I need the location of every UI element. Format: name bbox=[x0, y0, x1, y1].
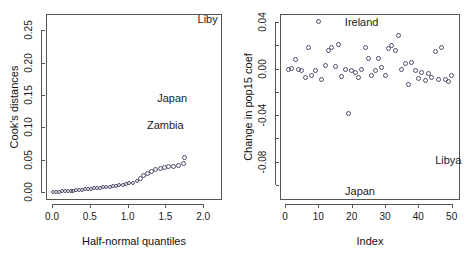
point-label-libya: Libya bbox=[435, 155, 461, 166]
x-axis-title-left: Half-normal quantiles bbox=[82, 236, 186, 247]
x-axis-line-right bbox=[285, 204, 452, 205]
y-tick-label-right-3: -0.08 bbox=[258, 150, 268, 173]
point-label-ireland: Ireland bbox=[345, 17, 379, 28]
data-point bbox=[339, 74, 344, 79]
x-tick-label-right-1: 10 bbox=[313, 212, 324, 222]
data-point bbox=[439, 45, 444, 50]
y-tick-left-0 bbox=[41, 192, 45, 193]
data-point bbox=[306, 45, 311, 50]
data-point bbox=[359, 67, 364, 72]
y-tick-right-3 bbox=[275, 162, 279, 163]
data-point bbox=[419, 70, 424, 75]
y-tick-label-right-2: -0.04 bbox=[258, 104, 268, 127]
x-tick-label-right-3: 30 bbox=[379, 212, 390, 222]
data-point bbox=[289, 66, 294, 71]
y-tick-right-0 bbox=[275, 22, 279, 23]
x-tick-label-right-4: 40 bbox=[413, 212, 424, 222]
y-minor-tick-right-0 bbox=[276, 45, 279, 46]
figure-canvas: Half-normal quantiles Cook's distances 0… bbox=[0, 0, 468, 264]
y-tick-label-left-5: 0.25 bbox=[24, 20, 34, 39]
panel-coef-change: Index Change in pop15 coef 010203040500.… bbox=[234, 0, 468, 264]
x-tick-right-4 bbox=[418, 204, 419, 208]
data-point bbox=[323, 63, 328, 68]
x-tick-label-right-2: 20 bbox=[346, 212, 357, 222]
y-tick-label-left-2: 0.10 bbox=[24, 118, 34, 137]
point-label-zambia: Zambia bbox=[147, 120, 184, 131]
data-point bbox=[336, 42, 341, 47]
data-point bbox=[393, 48, 398, 53]
y-tick-label-left-0: 0.00 bbox=[24, 182, 34, 201]
y-axis-line-right bbox=[275, 22, 276, 185]
y-tick-left-3 bbox=[41, 95, 45, 96]
y-tick-left-1 bbox=[41, 160, 45, 161]
x-tick-right-0 bbox=[285, 204, 286, 208]
y-tick-right-2 bbox=[275, 115, 279, 116]
data-point bbox=[293, 57, 298, 62]
y-axis-line-left bbox=[41, 30, 42, 192]
y-minor-tick-right-2 bbox=[276, 138, 279, 139]
data-point bbox=[383, 73, 388, 78]
x-tick-left-3 bbox=[165, 204, 166, 208]
data-point bbox=[333, 64, 338, 69]
y-tick-label-left-1: 0.05 bbox=[24, 150, 34, 169]
y-axis-title-right: Change in pop15 coef bbox=[243, 53, 254, 161]
x-tick-label-left-2: 1.0 bbox=[121, 212, 135, 222]
data-point bbox=[366, 56, 371, 61]
y-tick-label-right-0: 0.04 bbox=[258, 12, 268, 31]
x-tick-label-left-4: 2.0 bbox=[196, 212, 210, 222]
x-tick-left-4 bbox=[203, 204, 204, 208]
y-tick-label-left-3: 0.15 bbox=[24, 85, 34, 104]
data-point bbox=[416, 76, 421, 81]
y-tick-left-4 bbox=[41, 63, 45, 64]
data-point bbox=[429, 75, 434, 80]
x-tick-left-1 bbox=[90, 204, 91, 208]
data-point bbox=[376, 56, 381, 61]
y-axis-title-left: Cook's distances bbox=[9, 66, 20, 149]
plot-frame-right bbox=[280, 14, 460, 200]
x-tick-left-0 bbox=[52, 204, 53, 208]
point-label-japan: Japan bbox=[345, 186, 375, 197]
x-tick-label-left-3: 1.5 bbox=[158, 212, 172, 222]
data-point bbox=[423, 78, 428, 83]
point-label-japan: Japan bbox=[157, 93, 187, 104]
plot-frame-left bbox=[46, 14, 222, 200]
y-tick-right-1 bbox=[275, 69, 279, 70]
y-minor-tick-right-1 bbox=[276, 92, 279, 93]
x-tick-label-right-0: 0 bbox=[282, 212, 288, 222]
y-tick-left-5 bbox=[41, 30, 45, 31]
x-tick-label-left-0: 0.0 bbox=[45, 212, 59, 222]
data-point bbox=[303, 75, 308, 80]
x-tick-right-5 bbox=[452, 204, 453, 208]
y-tick-label-left-4: 0.20 bbox=[24, 53, 34, 72]
x-tick-label-left-1: 0.5 bbox=[83, 212, 97, 222]
x-tick-right-2 bbox=[352, 204, 353, 208]
data-point bbox=[446, 79, 451, 84]
data-point bbox=[433, 49, 438, 54]
data-point bbox=[316, 19, 321, 24]
data-point bbox=[363, 45, 368, 50]
y-tick-left-2 bbox=[41, 127, 45, 128]
data-point bbox=[182, 155, 187, 160]
x-tick-right-3 bbox=[385, 204, 386, 208]
x-axis-title-right: Index bbox=[357, 236, 384, 247]
x-tick-label-right-5: 50 bbox=[446, 212, 457, 222]
data-point bbox=[373, 68, 378, 73]
data-point bbox=[449, 73, 454, 78]
y-tick-label-right-1: 0.00 bbox=[258, 59, 268, 78]
x-tick-right-1 bbox=[318, 204, 319, 208]
data-point bbox=[436, 77, 441, 82]
point-label-liby: Liby bbox=[198, 14, 218, 25]
y-minor-tick-right-3 bbox=[276, 185, 279, 186]
data-point bbox=[343, 67, 348, 72]
panel-cooks-distance: Half-normal quantiles Cook's distances 0… bbox=[0, 0, 234, 264]
x-tick-left-2 bbox=[128, 204, 129, 208]
data-point bbox=[396, 33, 401, 38]
